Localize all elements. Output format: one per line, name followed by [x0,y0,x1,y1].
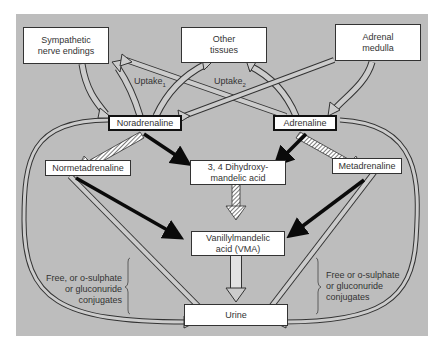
node-noradrenaline: Noradrenaline [108,115,182,131]
label-left-conjugates: Free, or o-sulphate or gluconuride conju… [44,273,122,306]
label-uptake2: Uptake2 [214,76,246,87]
node-label: Other [210,34,238,45]
node-label: mandelic acid [208,173,269,184]
node-label: Normetadrenaline [52,163,124,174]
node-label: medulla [362,43,394,54]
node-urine: Urine [184,304,288,326]
label-uptake1: Uptake1 [134,76,166,87]
node-label: Noradrenaline [117,118,174,129]
node-label: Adrenal [362,32,394,43]
node-other-tissues: Other tissues [181,27,267,63]
node-dihydroxymandelic-acid: 3, 4 Dihydroxy- mandelic acid [190,160,286,185]
node-label: tissues [210,45,238,56]
node-metadrenaline: Metadrenaline [332,158,402,174]
node-sympathetic-nerve-endings: Sympathetic nerve endings [23,27,109,64]
node-label: Metadrenaline [338,161,395,172]
node-label: Adrenaline [283,118,326,129]
node-adrenal-medulla: Adrenal medulla [335,24,421,61]
node-label: Sympathetic [38,35,95,46]
node-normetadrenaline: Normetadrenaline [45,160,131,176]
node-label: acid (VMA) [206,244,270,255]
node-label: Urine [225,310,247,321]
node-label: 3, 4 Dihydroxy- [208,162,269,173]
node-adrenaline: Adrenaline [273,115,337,131]
label-right-conjugates: Free or o-sulphate or gluconuride conjug… [326,270,416,303]
node-label: Vanillylmandelic [206,233,270,244]
node-vanillylmandelic-acid: Vanillylmandelic acid (VMA) [191,231,285,256]
node-label: nerve endings [38,46,95,57]
